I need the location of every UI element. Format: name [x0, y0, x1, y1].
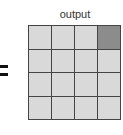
grid-cell	[52, 97, 74, 120]
grid-cell	[29, 73, 51, 96]
grid-cell	[75, 73, 97, 96]
output-grid	[28, 25, 121, 120]
grid-cell	[52, 73, 74, 96]
grid-cell	[98, 97, 120, 120]
equals-bar-bottom	[0, 73, 8, 76]
grid-cell	[52, 50, 74, 73]
grid-cell	[29, 97, 51, 120]
grid-cell	[75, 97, 97, 120]
grid-cell-highlighted	[98, 26, 120, 49]
equals-bar-top	[0, 65, 8, 68]
equals-sign	[0, 64, 8, 78]
grid-cell	[98, 50, 120, 73]
grid-cell	[29, 50, 51, 73]
grid-cell	[98, 73, 120, 96]
output-label: output	[28, 8, 122, 20]
grid-cell	[75, 26, 97, 49]
grid-cell	[52, 26, 74, 49]
grid-cell	[75, 50, 97, 73]
grid-cell	[29, 26, 51, 49]
